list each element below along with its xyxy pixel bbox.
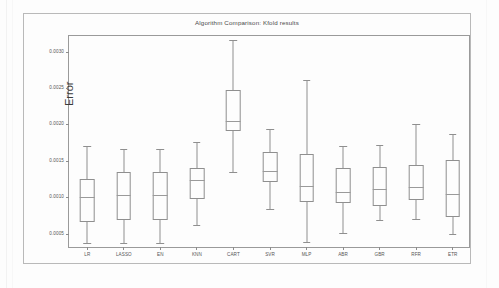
box-iqr bbox=[336, 168, 351, 202]
x-tick-label: ETR bbox=[448, 252, 458, 257]
median-line bbox=[80, 197, 95, 198]
whisker-cap-lower bbox=[412, 219, 420, 220]
whisker-cap-upper bbox=[266, 129, 274, 130]
whisker-upper bbox=[343, 146, 344, 168]
x-tick-mark bbox=[270, 247, 271, 250]
whisker-cap-lower bbox=[376, 220, 384, 221]
whisker-cap-lower bbox=[83, 243, 91, 244]
box-plot-lasso bbox=[106, 36, 143, 247]
whisker-cap-lower bbox=[120, 243, 128, 244]
x-tick-label: GBR bbox=[374, 252, 384, 257]
page-artifact-streak bbox=[6, 0, 7, 288]
whisker-cap-lower bbox=[266, 209, 274, 210]
whisker-cap-upper bbox=[303, 80, 311, 81]
whisker-cap-lower bbox=[157, 243, 165, 244]
y-tick-label: 0.0030 bbox=[49, 49, 64, 54]
y-tick-label: 0.0005 bbox=[49, 231, 64, 236]
whisker-cap-upper bbox=[449, 134, 457, 135]
box-plot-lr bbox=[69, 36, 106, 247]
median-line bbox=[372, 189, 387, 190]
whisker-upper bbox=[306, 80, 307, 154]
median-line bbox=[336, 192, 351, 193]
x-tick-mark bbox=[196, 247, 197, 250]
box-iqr bbox=[153, 172, 168, 220]
box-plot-gbr bbox=[361, 36, 398, 247]
box-iqr bbox=[445, 160, 460, 217]
whisker-lower bbox=[123, 220, 124, 243]
x-tick-mark bbox=[233, 247, 234, 250]
box-iqr bbox=[299, 154, 314, 202]
x-tick-label: ABR bbox=[338, 252, 348, 257]
chart-title: Algorithm Comparison: Kfold results bbox=[23, 19, 471, 26]
plot-area: Error 0.00050.00100.00150.00200.00250.00… bbox=[68, 35, 470, 248]
whisker-cap-upper bbox=[339, 146, 347, 147]
x-tick-mark bbox=[160, 247, 161, 250]
whisker-upper bbox=[452, 134, 453, 160]
whisker-cap-upper bbox=[120, 149, 128, 150]
whisker-upper bbox=[87, 146, 88, 180]
whisker-lower bbox=[452, 217, 453, 235]
box-iqr bbox=[409, 165, 424, 200]
median-line bbox=[226, 121, 241, 122]
x-tick-mark bbox=[123, 247, 124, 250]
x-tick-label: CART bbox=[227, 252, 240, 257]
whisker-lower bbox=[416, 200, 417, 219]
x-tick-label: MLP bbox=[302, 252, 312, 257]
whisker-cap-upper bbox=[83, 146, 91, 147]
box-plot-svr bbox=[252, 36, 289, 247]
whisker-cap-upper bbox=[230, 40, 238, 41]
box-plot-etr bbox=[434, 36, 471, 247]
x-tick-mark bbox=[306, 247, 307, 250]
box-plot-abr bbox=[325, 36, 362, 247]
whisker-upper bbox=[196, 142, 197, 168]
box-iqr bbox=[226, 90, 241, 132]
whisker-upper bbox=[160, 149, 161, 172]
y-tick-label: 0.0010 bbox=[49, 194, 64, 199]
x-tick-mark bbox=[452, 247, 453, 250]
box-plot-knn bbox=[179, 36, 216, 247]
whisker-lower bbox=[269, 182, 270, 209]
whisker-cap-lower bbox=[339, 233, 347, 234]
y-tick-label: 0.0015 bbox=[49, 158, 64, 163]
x-tick-mark bbox=[343, 247, 344, 250]
median-line bbox=[153, 195, 168, 196]
whisker-lower bbox=[87, 222, 88, 242]
median-line bbox=[299, 186, 314, 187]
box-iqr bbox=[190, 168, 205, 199]
median-line bbox=[190, 180, 205, 181]
median-line bbox=[263, 171, 278, 172]
whisker-lower bbox=[379, 206, 380, 220]
whisker-lower bbox=[160, 220, 161, 243]
whisker-cap-lower bbox=[230, 172, 238, 173]
whisker-upper bbox=[269, 129, 270, 152]
whisker-cap-lower bbox=[303, 242, 311, 243]
x-tick-label: LASSO bbox=[116, 252, 132, 257]
box-plot-rfr bbox=[398, 36, 435, 247]
whisker-upper bbox=[416, 124, 417, 165]
whisker-cap-lower bbox=[193, 225, 201, 226]
y-tick-label: 0.0020 bbox=[49, 121, 64, 126]
whisker-lower bbox=[233, 131, 234, 171]
page-artifact-streak bbox=[486, 0, 487, 288]
whisker-lower bbox=[196, 199, 197, 225]
median-line bbox=[117, 195, 132, 196]
median-line bbox=[445, 194, 460, 195]
whisker-cap-upper bbox=[157, 149, 165, 150]
x-tick-label: KNN bbox=[192, 252, 202, 257]
whisker-cap-upper bbox=[412, 124, 420, 125]
box-plot-en bbox=[142, 36, 179, 247]
box-iqr bbox=[263, 152, 278, 182]
x-tick-mark bbox=[87, 247, 88, 250]
x-tick-label: RFR bbox=[411, 252, 421, 257]
x-tick-mark bbox=[379, 247, 380, 250]
x-tick-label: EN bbox=[157, 252, 164, 257]
whisker-upper bbox=[379, 145, 380, 167]
y-tick-label: 0.0025 bbox=[49, 85, 64, 90]
whisker-cap-upper bbox=[376, 145, 384, 146]
whisker-lower bbox=[306, 202, 307, 242]
median-line bbox=[409, 187, 424, 188]
box-iqr bbox=[80, 179, 95, 222]
whisker-lower bbox=[343, 203, 344, 233]
figure-canvas: Algorithm Comparison: Kfold results Erro… bbox=[0, 0, 499, 288]
box-plot-cart bbox=[215, 36, 252, 247]
